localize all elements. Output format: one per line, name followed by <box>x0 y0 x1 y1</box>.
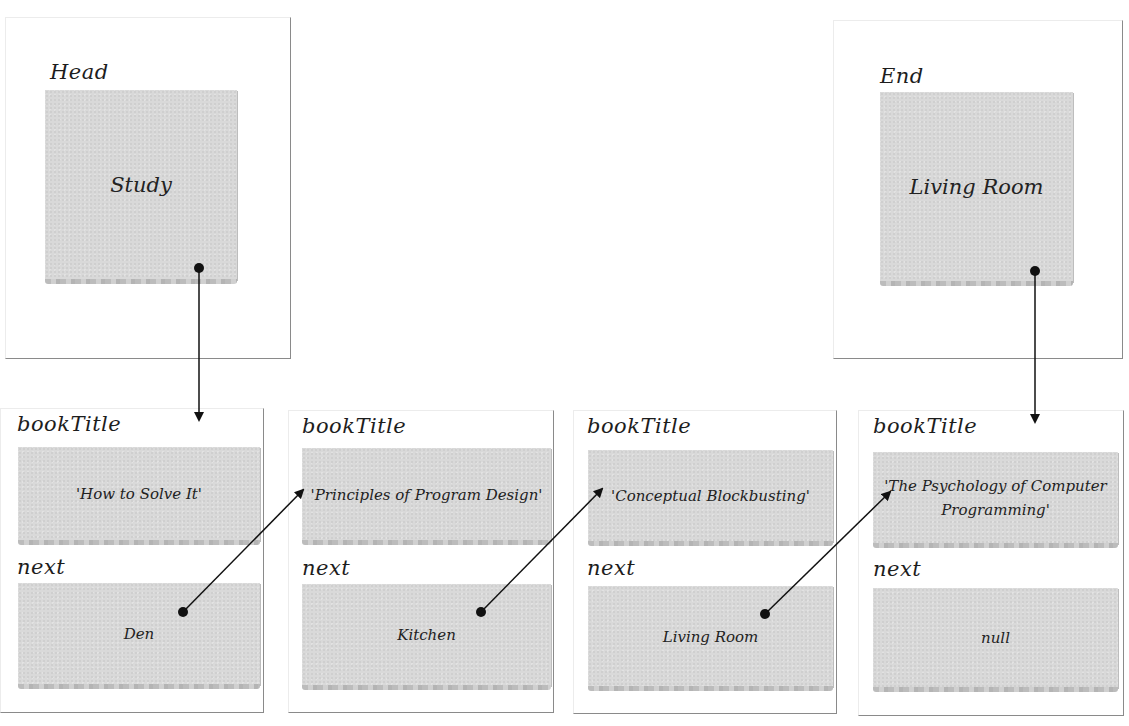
head-arrow <box>194 263 204 420</box>
next-arrow-3 <box>760 492 890 619</box>
next-arrow-1 <box>178 490 303 617</box>
end-arrow <box>1030 266 1040 422</box>
pointer-arrows <box>0 0 1129 726</box>
next-arrow-2 <box>476 489 602 617</box>
